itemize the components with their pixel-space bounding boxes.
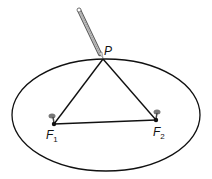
ellipse-curve [12, 59, 200, 171]
pencil-icon [77, 8, 103, 58]
ellipse-diagram: P F1 F2 [0, 0, 212, 179]
label-f2-sub: 2 [160, 132, 165, 141]
label-p: P [104, 44, 112, 58]
label-f2: F2 [153, 125, 165, 141]
pin-icon-f1 [49, 114, 57, 127]
label-f1: F1 [46, 128, 58, 144]
label-f1-sub: 1 [53, 135, 58, 144]
pin-icon-f2 [154, 110, 161, 123]
string-triangle [54, 59, 156, 124]
